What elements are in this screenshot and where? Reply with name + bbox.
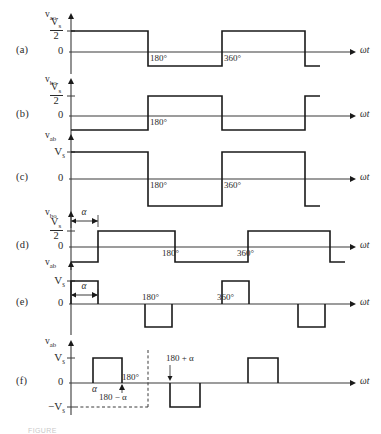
- zero-label-e: 0: [58, 297, 63, 308]
- axis-arrow-e: [350, 301, 356, 307]
- annotation-180-minus-alpha: 180 − α: [99, 392, 127, 402]
- tick-label-c-0: 180°: [150, 180, 167, 190]
- tick-label-f-180: 180°: [122, 372, 139, 382]
- amplitude-label-a: Vs2: [47, 17, 65, 42]
- zero-label-c: 0: [58, 172, 63, 183]
- tick-label-a-1: 360°: [224, 53, 241, 63]
- tick-label-d-0: 180°: [162, 248, 179, 258]
- axis-arrow-d: [350, 244, 356, 250]
- vertical-axis-arrow-b: [68, 78, 74, 84]
- alpha-arrow-right-d: [92, 218, 98, 224]
- omega-t-label-e: ωt: [360, 297, 369, 307]
- annotation-minus-arrowhead: [119, 384, 125, 390]
- panel-tag-b: (b): [16, 108, 29, 119]
- amplitude-label-f: Vs: [45, 351, 65, 366]
- alpha-arrow-right-e: [92, 292, 98, 298]
- pulse-f-2: [248, 358, 278, 383]
- tick-label-e-1: 360°: [217, 292, 234, 302]
- zero-label-b: 0: [58, 109, 63, 120]
- annotation-plus-arrowhead: [168, 376, 173, 381]
- omega-t-label-f: ωt: [360, 376, 369, 386]
- panel-tag-f: (f): [16, 375, 27, 386]
- panel-tag-a: (a): [16, 44, 28, 55]
- axis-arrow-c: [350, 176, 356, 182]
- omega-t-label-b: ωt: [360, 109, 369, 119]
- figure-caption: FIGURE: [28, 427, 57, 434]
- pulse-e-3: [298, 304, 325, 327]
- pulse-e-1: [145, 304, 172, 327]
- pulse-f-0: [93, 358, 122, 383]
- amplitude-label-e: Vs: [45, 274, 65, 289]
- vertical-axis-arrow-f: [68, 340, 74, 346]
- zero-label-f: 0: [58, 376, 63, 387]
- axis-arrow-a: [350, 49, 356, 55]
- omega-t-label-a: ωt: [360, 45, 369, 55]
- tick-label-d-1: 360°: [237, 248, 254, 258]
- signal-label-c: vab: [45, 130, 56, 142]
- tick-label-b-0: 180°: [150, 117, 167, 127]
- annotation-180-plus-alpha: 180 + α: [166, 353, 194, 363]
- pulse-f-1: [170, 383, 200, 407]
- alpha-label-e: α: [82, 281, 87, 291]
- omega-t-label-d: ωt: [360, 240, 369, 250]
- tick-label-e-0: 180°: [142, 292, 159, 302]
- panel-tag-c: (c): [16, 171, 28, 182]
- tick-label-c-1: 360°: [224, 180, 241, 190]
- zero-label-d: 0: [58, 240, 63, 251]
- axis-arrow-b: [350, 113, 356, 119]
- zero-label-a: 0: [58, 45, 63, 56]
- alpha-arrow-left-d: [71, 219, 76, 224]
- axis-arrow-f: [350, 380, 356, 386]
- amplitude-neg-label-f: −Vs: [38, 400, 65, 415]
- alpha-label-d: α: [82, 207, 87, 217]
- signal-label-f: vab: [45, 336, 56, 348]
- signal-label-e: vab: [45, 257, 56, 269]
- amplitude-label-c: Vs: [45, 145, 65, 160]
- amplitude-label-b: Vs2: [47, 82, 65, 107]
- alpha-label-f: α: [92, 384, 97, 394]
- waveform-b: [71, 96, 320, 130]
- vertical-axis-arrow-a: [68, 13, 74, 19]
- panel-tag-e: (e): [16, 296, 28, 307]
- amplitude-label-d: Vs2: [47, 217, 65, 242]
- vertical-axis-arrow-c: [68, 134, 74, 140]
- tick-label-a-0: 180°: [150, 53, 167, 63]
- omega-t-label-c: ωt: [360, 172, 369, 182]
- panel-tag-d: (d): [16, 239, 29, 250]
- waveform-a: [71, 31, 320, 66]
